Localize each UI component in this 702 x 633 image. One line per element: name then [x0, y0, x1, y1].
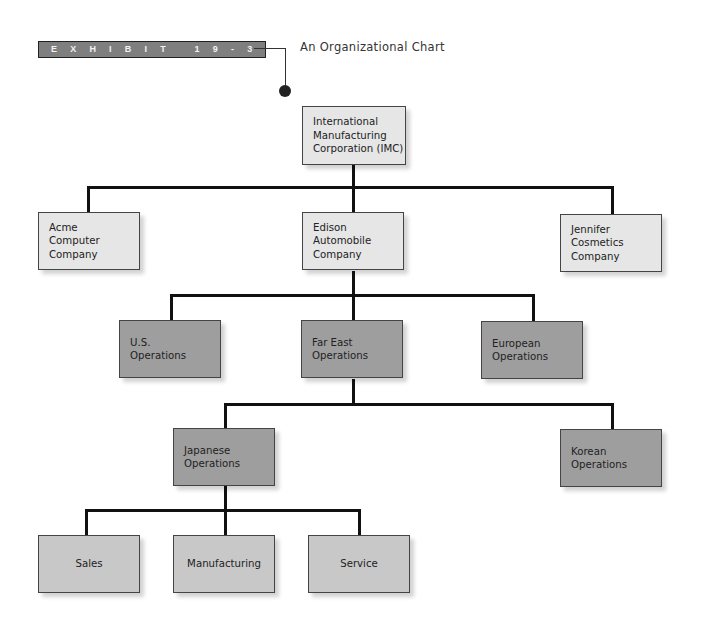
connector	[87, 186, 614, 189]
node-label: Corporation (IMC)	[313, 142, 405, 156]
connector	[611, 186, 614, 214]
node-label: Operations	[492, 350, 582, 364]
node-label: Sales	[75, 557, 102, 571]
node-label: Operations	[184, 457, 274, 471]
node-far-east-operations: Far East Operations	[301, 320, 403, 378]
connector	[85, 509, 361, 512]
node-label: U.S.	[130, 336, 220, 350]
node-japanese-operations: Japanese Operations	[173, 428, 275, 486]
node-label: Company	[313, 248, 403, 262]
node-edison: Edison Automobile Company	[302, 212, 404, 270]
node-service: Service	[308, 535, 410, 593]
exhibit-connector-v	[285, 48, 286, 88]
node-label: Korean	[571, 445, 661, 459]
connector	[352, 294, 355, 321]
node-label: Service	[340, 557, 378, 571]
connector-dot-icon	[279, 85, 291, 97]
node-label: Company	[49, 248, 139, 262]
node-label: Far East	[312, 336, 402, 350]
node-imc: International Manufacturing Corporation …	[302, 106, 406, 165]
node-label: Operations	[130, 349, 220, 363]
node-label: Jennifer	[571, 223, 661, 237]
node-label: European	[492, 337, 582, 351]
exhibit-label: EXHIBIT 19-3	[38, 41, 266, 58]
exhibit-connector-h	[254, 48, 286, 49]
connector	[611, 403, 614, 430]
connector	[352, 186, 355, 213]
chart-title: An Organizational Chart	[300, 40, 445, 54]
connector	[358, 509, 361, 536]
connector	[85, 509, 88, 536]
node-label: Manufacturing	[313, 129, 405, 143]
connector	[532, 294, 535, 322]
connector	[87, 186, 90, 213]
node-label: Edison	[313, 221, 403, 235]
node-us-operations: U.S. Operations	[119, 320, 221, 378]
connector	[170, 294, 173, 321]
node-jennifer: Jennifer Cosmetics Company	[560, 214, 662, 272]
node-manufacturing: Manufacturing	[173, 535, 275, 593]
node-european-operations: European Operations	[481, 321, 583, 379]
node-acme: Acme Computer Company	[38, 212, 140, 270]
node-sales: Sales	[38, 535, 140, 593]
node-label: Operations	[571, 458, 661, 472]
node-label: Operations	[312, 349, 402, 363]
node-label: Manufacturing	[187, 557, 261, 571]
node-label: Cosmetics	[571, 236, 661, 250]
connector	[224, 509, 227, 536]
node-label: Acme	[49, 221, 139, 235]
node-label: Japanese	[184, 444, 274, 458]
node-label: International	[313, 115, 405, 129]
connector	[224, 403, 227, 429]
node-korean-operations: Korean Operations	[560, 429, 662, 487]
node-label: Company	[571, 250, 661, 264]
connector	[224, 403, 614, 406]
node-label: Automobile	[313, 234, 403, 248]
connector	[352, 379, 355, 406]
node-label: Computer	[49, 234, 139, 248]
